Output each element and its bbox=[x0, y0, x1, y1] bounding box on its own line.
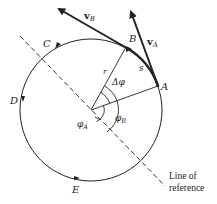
point-A-dot bbox=[157, 85, 160, 88]
label-vB: vB bbox=[83, 10, 95, 23]
label-delta-phi: Δφ bbox=[111, 77, 125, 87]
direction-arrow-C bbox=[55, 42, 61, 49]
vector-vA-arrow bbox=[131, 12, 158, 86]
label-B: B bbox=[128, 33, 136, 44]
direction-arrow-D bbox=[21, 96, 25, 102]
label-E: E bbox=[71, 184, 80, 195]
label-phi-B: φB bbox=[115, 113, 126, 125]
vector-vB-arrow bbox=[59, 9, 132, 51]
circular-motion-diagram: vB vA B A C D E r s Δφ φB φA Line of ref… bbox=[0, 0, 217, 204]
label-phi-A: φA bbox=[77, 119, 88, 131]
radius-to-A bbox=[91, 86, 158, 110]
label-D: D bbox=[9, 95, 18, 106]
angle-arc-delta-phi bbox=[101, 93, 110, 104]
label-vA: vA bbox=[146, 36, 158, 49]
label-reference-line-1: Line of bbox=[169, 171, 198, 181]
angle-arc-phi-A bbox=[100, 106, 105, 120]
label-A: A bbox=[160, 81, 168, 92]
label-s: s bbox=[139, 63, 144, 73]
label-C: C bbox=[43, 38, 51, 49]
label-r: r bbox=[103, 67, 108, 76]
label-reference-line-2: reference bbox=[169, 183, 204, 193]
